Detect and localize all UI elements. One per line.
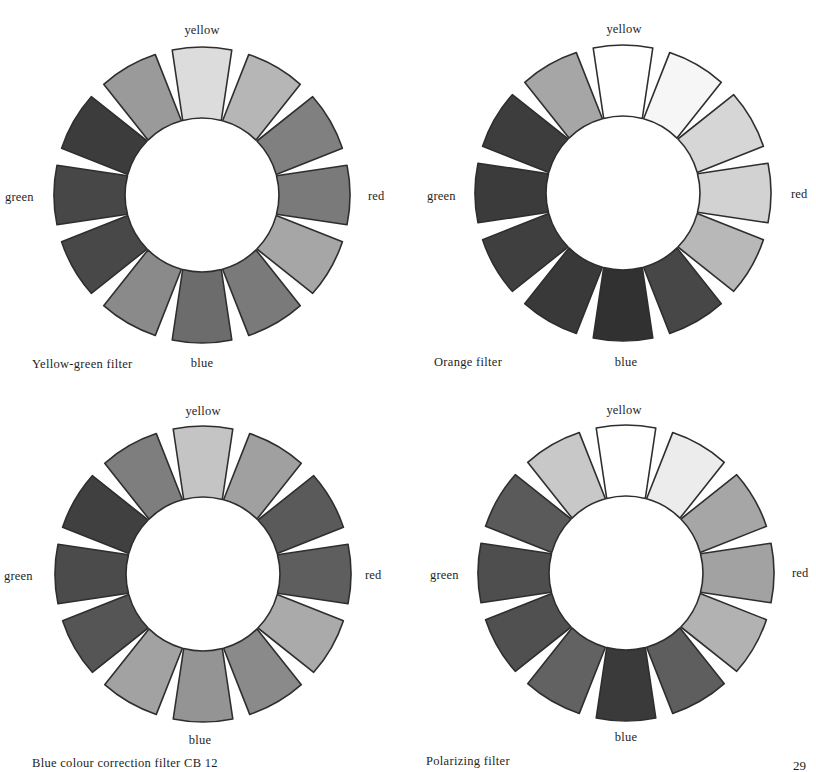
wheel-4-label-blue: blue — [615, 731, 637, 744]
wheel-2-label-yellow: yellow — [606, 23, 641, 36]
wheel-segment — [172, 47, 232, 121]
wheel-segment — [173, 426, 233, 500]
wheel-segment — [596, 425, 656, 499]
book-page: yellow red green blue Yellow-green filte… — [0, 0, 816, 772]
wheel-segment — [172, 270, 232, 344]
wheel-3-label-red: red — [365, 569, 382, 582]
colour-wheels-figure — [0, 0, 816, 772]
wheel-1-label-red: red — [368, 190, 385, 203]
wheel-1-caption: Yellow-green filter — [32, 358, 133, 371]
wheel-3-label-blue: blue — [189, 734, 211, 747]
wheel-segment — [278, 544, 352, 604]
wheel-blue-correction-filter — [55, 426, 351, 722]
wheel-yellow-green-filter — [54, 47, 350, 343]
wheel-3-caption: Blue colour correction filter CB 12 — [32, 757, 218, 770]
wheel-segment — [698, 163, 772, 223]
wheel-3-label-yellow: yellow — [185, 405, 220, 418]
wheel-2-label-red: red — [791, 188, 808, 201]
wheel-segment — [173, 649, 233, 723]
wheel-segment — [54, 165, 128, 225]
wheel-1-label-green: green — [5, 191, 34, 204]
wheel-2-label-blue: blue — [615, 356, 637, 369]
wheel-4-label-green: green — [430, 569, 459, 582]
wheel-segment — [277, 165, 351, 225]
wheel-polarizing-filter — [478, 425, 774, 721]
wheel-segment — [475, 163, 549, 223]
wheel-segment — [596, 648, 656, 722]
wheel-1-label-yellow: yellow — [184, 24, 219, 37]
wheel-segment — [593, 45, 653, 119]
wheel-orange-filter — [475, 45, 771, 341]
wheel-segment — [701, 543, 775, 603]
wheel-4-caption: Polarizing filter — [426, 755, 510, 768]
page-number: 29 — [793, 759, 806, 772]
wheel-segment — [55, 544, 129, 604]
wheel-segment — [478, 543, 552, 603]
wheel-2-caption: Orange filter — [434, 356, 502, 369]
wheel-3-label-green: green — [4, 570, 33, 583]
wheel-1-label-blue: blue — [191, 357, 213, 370]
wheel-4-label-red: red — [792, 567, 809, 580]
wheel-2-label-green: green — [427, 190, 456, 203]
wheel-segment — [593, 268, 653, 342]
wheel-4-label-yellow: yellow — [606, 404, 641, 417]
